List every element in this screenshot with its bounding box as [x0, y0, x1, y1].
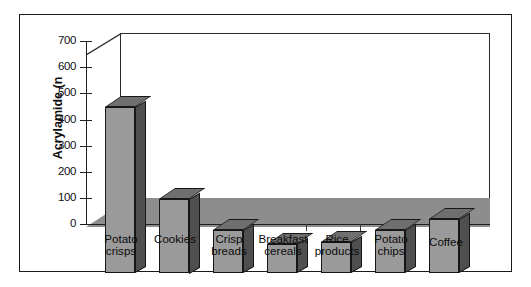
y-tick-label-0: 0 — [42, 217, 76, 229]
y-tick-label-700: 700 — [42, 34, 76, 46]
x-label-cookies: Cookies — [146, 233, 204, 245]
depth-edge — [86, 33, 122, 55]
x-label-potato-chips: Potato chips — [363, 233, 419, 257]
y-tick-300 — [80, 146, 92, 147]
y-tick-100 — [80, 198, 92, 199]
y-tick-700 — [80, 41, 92, 42]
y-tick-600 — [80, 67, 92, 68]
x-tick-4 — [306, 224, 307, 231]
y-tick-0 — [80, 224, 92, 225]
x-label-potato-crisps: Potato crisps — [93, 233, 149, 257]
x-label-crisp-breads: Crisp breads — [201, 233, 257, 257]
y-tick-label-100: 100 — [42, 191, 76, 203]
figure-container: 700 600 500 400 300 200 100 0 Acrylamide… — [0, 0, 531, 287]
chart-scene: 700 600 500 400 300 200 100 0 Acrylamide… — [20, 15, 513, 273]
y-tick-400 — [80, 120, 92, 121]
x-tick-5 — [360, 224, 361, 231]
x-label-rice-products: Rice products — [306, 233, 368, 257]
y-tick-500 — [80, 93, 92, 94]
figure-frame: 700 600 500 400 300 200 100 0 Acrylamide… — [19, 14, 512, 272]
x-label-coffee: Coffee — [418, 236, 474, 248]
y-tick-200 — [80, 172, 92, 173]
y-axis-title: Acrylamide (n — [51, 58, 65, 178]
